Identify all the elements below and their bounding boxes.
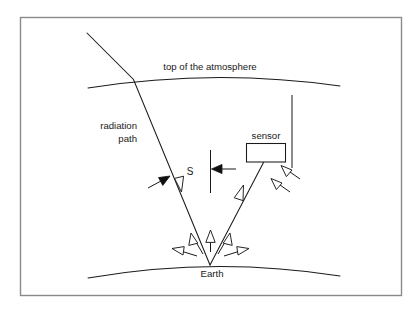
scatter-arrow-1-head: [172, 247, 184, 255]
earth-label: Earth: [201, 268, 224, 279]
s-symbol-label: S: [187, 166, 194, 177]
diagram-canvas: top of the atmosphere radiation path sen…: [0, 0, 420, 309]
incident-beam-marker-arrowhead: [159, 176, 171, 185]
top-of-atmosphere-label: top of the atmosphere: [163, 61, 256, 72]
scatter-arrow-3-head: [206, 230, 215, 242]
scatter-arrow-2-head: [189, 233, 198, 245]
sky-scatter-arrows: [271, 166, 300, 193]
sky-scatter-arrow-1-head: [281, 166, 292, 177]
horizontal-pointer-arrowhead: [212, 164, 223, 173]
upward-beam-arrowhead: [234, 185, 243, 201]
scatter-arrow-4-head: [223, 233, 232, 245]
scatter-arrow-5-head: [237, 247, 249, 255]
top-of-atmosphere-curve: [88, 77, 340, 88]
radiation-path-label-line2: path: [118, 133, 137, 144]
radiation-path-label-line1: radiation: [100, 120, 137, 131]
incident-beam-marker-shaft: [148, 181, 161, 188]
sensor-beam-path: [210, 163, 264, 266]
scatter-arrow-1-shaft: [183, 252, 198, 257]
sensor-box: [247, 144, 286, 163]
sky-scatter-arrow-1-shaft: [290, 172, 300, 179]
sky-scatter-arrow-2-shaft: [280, 185, 290, 192]
radiative-transfer-diagram: top of the atmosphere radiation path sen…: [0, 0, 420, 309]
scatter-arrow-5-shaft: [224, 252, 239, 257]
sensor-label: sensor: [252, 130, 282, 141]
sky-scatter-arrow-2-head: [271, 179, 282, 190]
surface-scatter-arrows: [172, 230, 249, 256]
